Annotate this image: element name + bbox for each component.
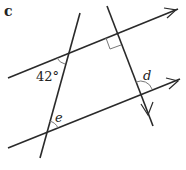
- lower-parallel-line: [8, 79, 180, 148]
- left-transversal: [40, 13, 80, 158]
- angle-42-label: 42°: [36, 69, 59, 84]
- geometry-diagram: c 42° d e: [0, 0, 186, 170]
- right-angle-marker-icon: [106, 38, 121, 49]
- angle-e-label: e: [55, 110, 63, 125]
- upper-parallel-line: [8, 9, 178, 78]
- angle-arc-42: [57, 58, 65, 64]
- part-label: c: [4, 3, 13, 19]
- angle-d-label: d: [143, 68, 151, 83]
- right-transversal: [107, 6, 153, 126]
